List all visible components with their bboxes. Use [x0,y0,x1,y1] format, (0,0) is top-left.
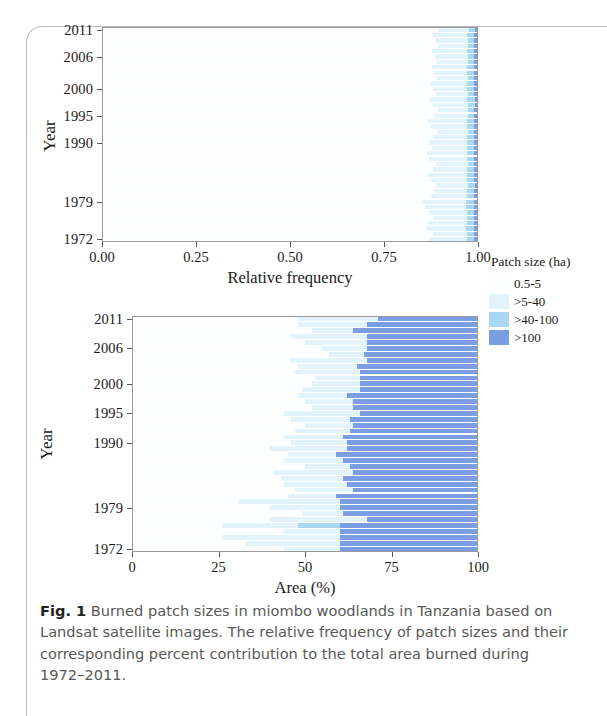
legend-title: Patch size (ha) [491,254,607,270]
y-axis-tick-label: 2006 [94,340,123,357]
legend-item: >5-40 [489,293,607,310]
x-axis-tick-label: 100 [467,559,489,576]
x-axis-tick-label: 0 [128,559,135,576]
x-axis-tick-label: 1.00 [465,249,490,266]
y-axis-tick-mark [127,384,132,385]
y-axis-tick-mark [97,89,102,90]
x-axis-tick-mark [305,552,306,557]
y-axis-tick-label: 1990 [64,134,93,151]
x-axis-tick-mark [290,242,291,247]
y-axis-tick-mark [97,239,102,240]
y-axis-tick-mark [127,319,132,320]
x-axis-tick-mark [132,552,133,557]
legend-swatch-icon [489,312,509,327]
y-axis-title-bottom: Year [37,384,57,504]
x-axis-title-top: Relative frequency [102,268,478,288]
y-axis-tick-label: 1972 [94,541,123,558]
x-axis-title-bottom: Area (%) [132,578,478,598]
legend: Patch size (ha) 0.5-5>5-40>40-100>100 [489,254,607,347]
y-axis-tick-label: 1995 [94,405,123,422]
area-percent-chart [132,316,478,552]
x-axis-tick-mark [478,552,479,557]
figure-caption: Fig. 1 Burned patch sizes in miombo wood… [40,600,575,686]
legend-item-label: 0.5-5 [514,276,541,292]
relative-frequency-chart [102,27,478,242]
y-axis-tick-label: 1990 [94,434,123,451]
y-axis-tick-label: 2006 [64,48,93,65]
x-axis-tick-label: 75 [384,559,399,576]
x-axis-tick-mark [102,242,103,247]
y-axis-tick-label: 1979 [64,193,93,210]
y-axis-tick-label: 1995 [64,107,93,124]
plot-frame-bottom [132,316,478,552]
y-axis-tick-label: 1979 [94,499,123,516]
x-axis-tick-label: 25 [211,559,226,576]
legend-swatch-icon [489,276,509,291]
y-axis-tick-mark [127,413,132,414]
y-axis-tick-label: 1972 [64,231,93,248]
x-axis-tick-mark [392,552,393,557]
y-axis-tick-mark [97,116,102,117]
x-axis-tick-label: 50 [298,559,313,576]
x-axis-tick-label: 0.00 [89,249,114,266]
plot-frame-top [102,27,478,242]
y-axis-tick-mark [127,549,132,550]
x-axis-tick-mark [384,242,385,247]
figure-caption-text: Burned patch sizes in miombo woodlands i… [40,602,568,683]
y-axis-title-top: Year [40,76,60,196]
legend-items: 0.5-5>5-40>40-100>100 [489,275,607,346]
figure-container: 2011200620001995199019791972 0.000.250.5… [0,0,607,716]
y-axis-tick-label: 2011 [94,310,123,327]
legend-item: >40-100 [489,311,607,328]
x-axis-tick-label: 0.50 [277,249,302,266]
legend-item: 0.5-5 [489,275,607,292]
x-axis-tick-mark [196,242,197,247]
legend-swatch-icon [489,330,509,345]
legend-item: >100 [489,329,607,346]
y-axis-tick-mark [127,348,132,349]
y-axis-tick-label: 2000 [64,80,93,97]
x-axis-tick-mark [219,552,220,557]
x-axis-tick-label: 0.75 [371,249,396,266]
y-axis-tick-mark [97,30,102,31]
y-axis-tick-mark [97,202,102,203]
legend-item-label: >100 [514,330,541,346]
y-axis-tick-mark [127,443,132,444]
legend-swatch-icon [489,294,509,309]
legend-item-label: >40-100 [514,312,558,328]
figure-number: Fig. 1 [40,602,86,619]
x-axis-tick-label: 0.25 [183,249,208,266]
x-axis-tick-mark [478,242,479,247]
y-axis-tick-label: 2000 [94,375,123,392]
y-axis-tick-label: 2011 [64,21,93,38]
y-axis-tick-mark [97,143,102,144]
y-axis-tick-mark [127,508,132,509]
legend-item-label: >5-40 [514,294,545,310]
y-axis-tick-mark [97,57,102,58]
